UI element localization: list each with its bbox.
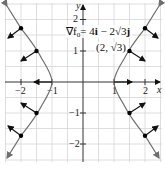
- point: [19, 26, 23, 30]
- x-tick-label: −2: [15, 85, 26, 96]
- point: [34, 49, 38, 53]
- y-tick-label: −2: [69, 138, 80, 149]
- y-axis-label: y: [75, 0, 81, 11]
- y-tick-label: 1: [73, 45, 78, 56]
- point: [143, 26, 147, 30]
- y-tick-label: −1: [69, 107, 80, 118]
- point: [34, 111, 38, 115]
- y-tick-label: 2: [73, 13, 78, 24]
- hyperbola-gradient-diagram: y x −2 −1 1 2 2 1 −1 −2 ∇f0= 4i − 2√3j: [0, 0, 165, 170]
- gradient-vector: [21, 51, 37, 61]
- gradient-vector: [8, 28, 21, 38]
- gradient-vector: [145, 126, 158, 136]
- gradient-equation: ∇f0= 4i − 2√3j: [65, 25, 130, 39]
- gradient-vector: [130, 51, 146, 61]
- x-tick-label: 2: [143, 85, 148, 96]
- gradient-vector: [8, 126, 21, 136]
- gradient-vector: [21, 103, 37, 113]
- x-axis-label: x: [156, 84, 162, 95]
- gradient-vector: [130, 103, 146, 113]
- point: [127, 111, 131, 115]
- point: [143, 134, 147, 138]
- gradient-vector: [145, 28, 158, 38]
- point: [127, 49, 131, 53]
- point: [19, 134, 23, 138]
- point-label: (2, √3): [96, 41, 126, 54]
